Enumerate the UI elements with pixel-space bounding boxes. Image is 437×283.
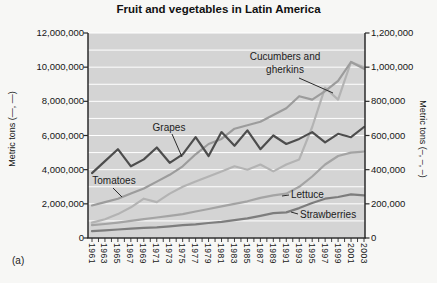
chart-title: Fruit and vegetables in Latin America (0, 3, 437, 15)
left-axis-tick-label: 12,000,000 (0, 28, 84, 38)
x-axis-tick-label: 1963 (99, 243, 109, 264)
x-axis-tick-label: 1979 (203, 243, 213, 264)
x-axis-tick-label: 1983 (229, 243, 239, 264)
left-axis-label: Metric tons (—, —) (7, 68, 17, 190)
x-axis-tick-label: 1977 (190, 243, 200, 264)
x-axis-tick-label: 1995 (307, 243, 317, 264)
right-axis-tick-label: 200,000 (371, 199, 433, 209)
x-axis-tick-label: 1967 (125, 243, 135, 264)
right-axis-tick-label: 1,200,000 (371, 28, 433, 38)
x-axis-tick-label: 2001 (346, 243, 356, 264)
figure: Fruit and vegetables in Latin America 12… (0, 0, 437, 283)
x-axis-tick-label: 1999 (333, 243, 343, 264)
subfigure-label: (a) (12, 255, 24, 266)
x-axis-tick-label: 1993 (294, 243, 304, 264)
left-axis-tick-label: 0 (0, 233, 84, 243)
annotation-strawberries: Strawberries (300, 209, 372, 222)
right-axis-label: Metric tons (–, –, –) (418, 78, 428, 200)
right-axis-tick-label: 0 (371, 233, 433, 243)
x-axis-tick-label: 1971 (151, 243, 161, 264)
x-axis-tick-label: 1987 (255, 243, 265, 264)
right-axis-tick-label: 1,000,000 (371, 62, 433, 72)
x-axis-tick-label: 1989 (268, 243, 278, 264)
annotation-cucumbers: Cucumbers and gherkins (237, 51, 333, 76)
left-axis-tick-label: 2,000,000 (0, 199, 84, 209)
annotation-tomatoes: Tomatoes (86, 175, 142, 188)
x-axis-tick-label: 1961 (87, 243, 97, 264)
annotation-grapes: Grapes (146, 122, 192, 135)
x-axis-tick-label: 1981 (216, 243, 226, 264)
x-axis-tick-label: 1991 (281, 243, 291, 264)
x-axis-tick-label: 1985 (242, 243, 252, 264)
x-axis-tick-label: 1965 (112, 243, 122, 264)
x-axis-tick-label: 1969 (138, 243, 148, 264)
x-axis-tick-label: 2003 (359, 243, 369, 264)
x-axis-tick-label: 1973 (164, 243, 174, 264)
annotation-lettuce: Lettuce (291, 189, 335, 202)
x-axis-tick-label: 1975 (177, 243, 187, 264)
x-axis-tick-label: 1997 (320, 243, 330, 264)
